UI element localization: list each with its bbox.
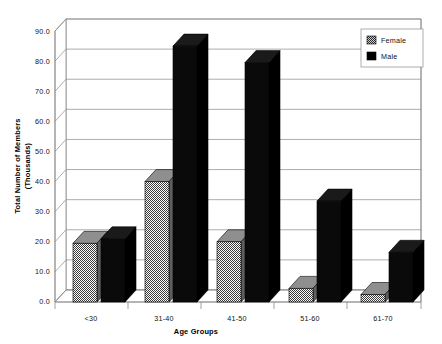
x-tick-label: 41-50 — [227, 314, 247, 323]
bar-male-under-30 — [101, 227, 136, 302]
y-tick-label: 80.0 — [35, 57, 50, 66]
y-tick-label: 30.0 — [35, 207, 50, 216]
bar-group-under-30 — [73, 227, 136, 302]
y-tick-label: 60.0 — [35, 117, 50, 126]
y-tick-label: 70.0 — [35, 87, 50, 96]
y-tick-label: 0.0 — [39, 297, 50, 306]
y-tick-label: 40.0 — [35, 177, 50, 186]
x-tick-label: 61-70 — [373, 314, 393, 323]
legend-swatch-female — [367, 36, 376, 44]
bar-male-31-40 — [173, 34, 208, 302]
y-tick-label: 50.0 — [35, 147, 50, 156]
y-tick-label: 20.0 — [35, 237, 50, 246]
legend-label-male: Male — [381, 52, 397, 61]
legend-box — [361, 29, 423, 67]
bar-male-51-60 — [317, 189, 352, 302]
x-tick-label: 51-60 — [300, 314, 320, 323]
legend-label-female: Female — [381, 36, 406, 45]
legend: Female Male — [361, 29, 423, 67]
y-axis-title-line1: Total Number of Members — [13, 118, 22, 213]
chart-svg: 90.0 80.0 70.0 60.0 50.0 40.0 30.0 20.0 … — [0, 0, 442, 344]
bar-male-41-50 — [245, 51, 280, 302]
x-axis-title: Age Groups — [174, 327, 218, 336]
y-tick-label: 10.0 — [35, 267, 50, 276]
x-tick-label: <30 — [85, 314, 98, 323]
legend-swatch-male — [367, 52, 376, 60]
bar-male-61-70 — [389, 240, 424, 302]
x-tick-label: 31-40 — [154, 314, 174, 323]
y-axis-title-line2: (Thousands) — [23, 142, 32, 189]
y-tick-label: 90.0 — [35, 27, 50, 36]
bar-chart: 90.0 80.0 70.0 60.0 50.0 40.0 30.0 20.0 … — [0, 0, 442, 344]
